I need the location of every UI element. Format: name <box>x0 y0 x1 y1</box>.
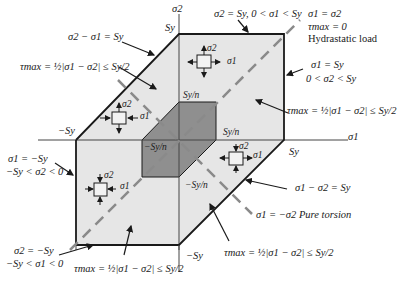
annotation-right-edge-1: σ1 = Sy <box>311 59 344 70</box>
annotation-hydrostatic-3: Hydrastatic load <box>308 33 377 44</box>
tick-sy-top: Sy <box>165 22 175 33</box>
element-top-s1: σ1 <box>227 56 236 67</box>
annotation-upper-left-edge: σ2 − σ1 = Sy <box>68 31 123 42</box>
annotation-bottom-edge-1: σ2 = −Sy <box>14 245 54 256</box>
annotation-hydrostatic-1: σ1 = σ2 <box>308 8 341 19</box>
tick-neg-syn-left: −Sy/n <box>144 142 167 153</box>
element-ul-s2: σ2 <box>122 99 131 110</box>
tick-syn-top: Sy/n <box>183 90 199 101</box>
element-left-s2: σ2 <box>104 170 113 181</box>
sigma2-axis-label: σ2 <box>172 3 182 14</box>
tick-sy-right: Sy <box>289 146 299 157</box>
tick-neg-sy-bottom: −Sy <box>186 250 203 261</box>
arrow-lower-right-tau <box>210 204 229 241</box>
element-top-s2: σ2 <box>207 43 216 54</box>
annotation-pure-torsion: σ1 = −σ2 Pure torsion <box>256 209 351 220</box>
arrow-right-edge <box>287 69 303 75</box>
arrow-lower-right-edge <box>246 180 287 189</box>
arrow-top-edge <box>238 20 248 32</box>
element-lr-s2: σ2 <box>239 141 248 152</box>
annotation-lower-right-edge: σ1 − σ2 = Sy <box>295 182 350 193</box>
annotation-lower-right-tau: τmax = ½|σ1 − σ2| ≤ Sy/2 <box>224 247 334 258</box>
annotation-bottom-tau: τmax = ½|σ1 − σ2| ≤ Sy/2 <box>74 263 184 274</box>
annotation-left-edge-2: −Sy < σ2 < 0 <box>6 166 63 177</box>
annotation-bottom-edge-2: −Sy < σ1 < 0 <box>6 258 63 269</box>
annotation-left-edge-1: σ1 = −Sy <box>8 153 48 164</box>
element-ul-s1: σ1 <box>140 111 149 122</box>
tick-syn-right: Sy/n <box>223 127 239 138</box>
element-lr-s1: σ1 <box>253 150 262 161</box>
annotation-top-edge: σ2 = Sy, 0 < σ1 < Sy <box>214 8 302 19</box>
tick-neg-syn-bottom: −Sy/n <box>185 180 208 191</box>
arrow-upper-left-edge <box>122 42 154 55</box>
annotation-right-tau: τmax = ½|σ1 − σ2| ≤ Sy/2 <box>287 105 397 116</box>
tick-neg-sy-left: −Sy <box>58 125 75 136</box>
annotation-hydrostatic-2: τmax = 0 <box>308 21 347 32</box>
annotation-upper-left-tau: τmax = ½|σ1 − σ2| ≤ Sy/2 <box>20 61 130 72</box>
sigma1-axis-label: σ1 <box>348 131 358 142</box>
annotation-right-edge-2: 0 < σ2 < Sy <box>306 73 356 84</box>
element-left-s1: σ1 <box>120 181 129 192</box>
